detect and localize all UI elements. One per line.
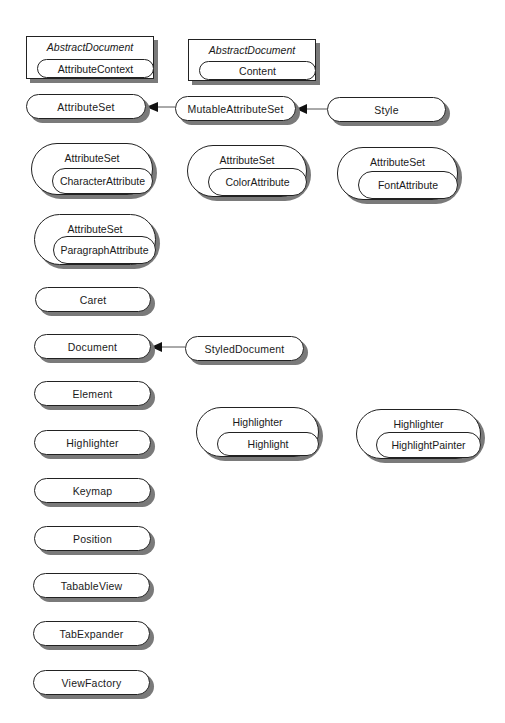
node-style[interactable]: Style xyxy=(327,97,446,122)
outer-class-label: AbstractDocument xyxy=(189,44,315,56)
inner-class-colorattribute[interactable]: ColorAttribute xyxy=(208,168,307,196)
node-tabexpander[interactable]: TabExpander xyxy=(33,621,150,646)
node-styleddocument[interactable]: StyledDocument xyxy=(185,336,304,361)
arrowhead-icon xyxy=(296,104,307,114)
inner-class-highlightpainter[interactable]: HighlightPainter xyxy=(376,432,481,458)
node-caret[interactable]: Caret xyxy=(35,287,151,312)
outer-class-label: AttributeSet xyxy=(338,156,457,168)
node-attributeset[interactable]: AttributeSet xyxy=(26,94,146,119)
inner-class-fontattribute[interactable]: FontAttribute xyxy=(358,171,458,199)
inner-class-paragraphattribute[interactable]: ParagraphAttribute xyxy=(53,236,156,264)
node-element[interactable]: Element xyxy=(34,381,151,406)
node-mutableattributeset[interactable]: MutableAttributeSet xyxy=(175,96,296,121)
group-highlighter-highlightpainter[interactable]: Highlighter HighlightPainter xyxy=(356,409,481,459)
group-attributeset-paragraphattribute[interactable]: AttributeSet ParagraphAttribute xyxy=(34,214,156,265)
class-box-abstractdocument-content[interactable]: AbstractDocument Content xyxy=(188,39,316,81)
group-highlighter-highlight[interactable]: Highlighter Highlight xyxy=(196,407,319,457)
class-box-abstractdocument-attributecontext[interactable]: AbstractDocument AttributeContext xyxy=(26,36,154,79)
node-position[interactable]: Position xyxy=(34,526,151,551)
arrowhead-icon xyxy=(146,102,158,112)
node-viewfactory[interactable]: ViewFactory xyxy=(33,670,150,695)
group-attributeset-fontattribute[interactable]: AttributeSet FontAttribute xyxy=(337,147,458,200)
outer-class-label: AttributeSet xyxy=(35,223,155,235)
node-keymap[interactable]: Keymap xyxy=(34,478,151,503)
node-document[interactable]: Document xyxy=(34,334,151,359)
inner-class-highlight[interactable]: Highlight xyxy=(217,432,319,456)
inner-class-content[interactable]: Content xyxy=(199,61,316,80)
outer-class-label: AttributeSet xyxy=(188,154,306,166)
group-attributeset-colorattribute[interactable]: AttributeSet ColorAttribute xyxy=(187,145,307,197)
outer-class-label: AbstractDocument xyxy=(27,41,153,53)
group-attributeset-characterattribute[interactable]: AttributeSet CharacterAttribute xyxy=(31,143,153,195)
node-highlighter[interactable]: Highlighter xyxy=(34,430,151,455)
node-tabableview[interactable]: TabableView xyxy=(33,573,150,598)
outer-class-label: AttributeSet xyxy=(32,152,152,164)
inner-class-characterattribute[interactable]: CharacterAttribute xyxy=(52,168,153,194)
outer-class-label: Highlighter xyxy=(357,418,480,430)
arrowhead-icon xyxy=(151,342,162,352)
inner-class-attributecontext[interactable]: AttributeContext xyxy=(37,59,154,78)
outer-class-label: Highlighter xyxy=(197,416,318,428)
